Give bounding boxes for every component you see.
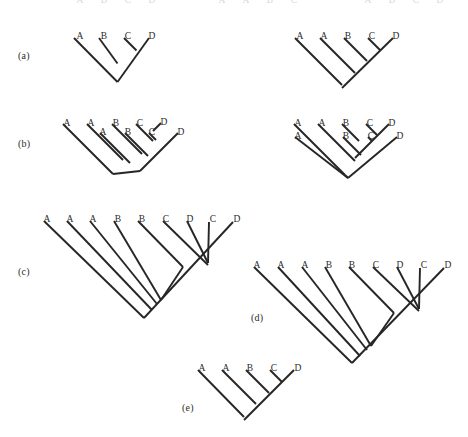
taxon-label-a: A <box>297 31 304 41</box>
taxon-label-b: B <box>343 118 349 128</box>
taxon-label-d: D <box>393 31 400 41</box>
taxon-label-a: A <box>254 260 261 270</box>
taxon-label-c: C <box>137 118 143 128</box>
taxon-label-c: C <box>373 260 379 270</box>
taxon-label-c: C <box>125 31 131 41</box>
taxon-label-b: B <box>113 118 119 128</box>
panel-label-b: (b) <box>18 138 30 149</box>
taxon-label-a: A <box>295 131 302 141</box>
taxon-label-a: A <box>199 363 206 373</box>
taxon-label-a: A <box>295 118 302 128</box>
tree-labels-layer: (a)ABCDAABCD(b)AAABBCCDDAAABBCCDD(c)AAAB… <box>0 0 468 437</box>
taxon-label-c: C <box>163 214 169 224</box>
taxon-label-c: C <box>210 214 216 224</box>
taxon-label-a: A <box>321 31 328 41</box>
taxon-label-a: A <box>223 363 230 373</box>
taxon-label-c: C <box>149 127 155 137</box>
taxon-label-d: D <box>161 117 168 127</box>
taxon-label-d: D <box>389 118 396 128</box>
taxon-label-c: C <box>368 131 374 141</box>
taxon-label-b: B <box>345 31 351 41</box>
taxon-label-b: B <box>139 214 145 224</box>
taxon-label-b: B <box>125 127 131 137</box>
panel-label-d: (d) <box>251 312 263 323</box>
taxon-label-a: A <box>90 214 97 224</box>
taxon-label-d: D <box>178 127 185 137</box>
taxon-label-a: A <box>302 260 309 270</box>
taxon-label-b: B <box>343 131 349 141</box>
taxon-label-b: B <box>349 260 355 270</box>
taxon-label-d: D <box>234 214 241 224</box>
taxon-label-c: C <box>271 363 277 373</box>
taxon-label-b: B <box>247 363 253 373</box>
taxon-label-d: D <box>295 363 302 373</box>
taxon-label-a: A <box>88 118 95 128</box>
taxon-label-d: D <box>149 31 156 41</box>
taxon-label-c: C <box>369 31 375 41</box>
taxon-label-d: D <box>187 214 194 224</box>
taxon-label-b: B <box>115 214 121 224</box>
phylogenetic-tree-figure: ABCDAABCABCD (a)ABCDAABCD(b)AAABBCCDDAAA… <box>0 0 468 437</box>
panel-label-c: (c) <box>18 266 30 277</box>
taxon-label-d: D <box>397 131 404 141</box>
taxon-label-d: D <box>397 260 404 270</box>
taxon-label-a: A <box>67 214 74 224</box>
taxon-label-d: D <box>445 260 452 270</box>
taxon-label-b: B <box>101 31 107 41</box>
taxon-label-a: A <box>77 31 84 41</box>
taxon-label-a: A <box>64 118 71 128</box>
panel-label-a: (a) <box>18 50 30 61</box>
taxon-label-c: C <box>367 118 373 128</box>
panel-label-e: (e) <box>182 402 194 413</box>
taxon-label-a: A <box>100 127 107 137</box>
taxon-label-b: B <box>326 260 332 270</box>
taxon-label-a: A <box>319 118 326 128</box>
taxon-label-a: A <box>278 260 285 270</box>
taxon-label-a: A <box>44 214 51 224</box>
taxon-label-c: C <box>421 260 427 270</box>
